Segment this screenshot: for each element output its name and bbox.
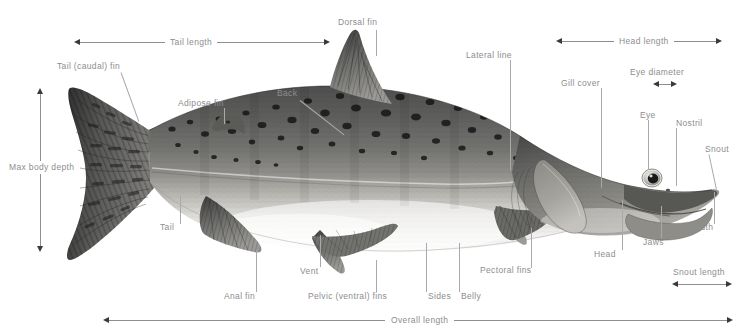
fish-anatomy-diagram: Tail length Head length Eye diameter Sno… bbox=[0, 0, 747, 336]
label-snout-length: Snout length bbox=[673, 268, 725, 277]
label-snout: Snout bbox=[705, 145, 729, 154]
nostril-art bbox=[666, 189, 670, 192]
overall-length-arrow-left bbox=[103, 317, 109, 323]
tail-length-arrow-left bbox=[74, 39, 80, 45]
label-tail-length: Tail length bbox=[165, 38, 217, 47]
label-pectoral-fins: Pectoral fins bbox=[480, 266, 531, 275]
label-pelvic-ventral-fins: Pelvic (ventral) fins bbox=[308, 292, 387, 301]
label-anal-fin: Anal fin bbox=[224, 292, 255, 301]
leader-gill-cover bbox=[601, 88, 602, 188]
salmon-illustration bbox=[0, 0, 747, 336]
label-sides: Sides bbox=[428, 292, 451, 301]
head-length-arrow-left bbox=[556, 38, 562, 44]
leader-tail bbox=[180, 196, 181, 224]
leader-eye bbox=[648, 120, 649, 170]
leader-pectoral-fins bbox=[531, 228, 532, 268]
label-jaws: Jaws bbox=[643, 238, 664, 247]
label-tail-caudal-fin: Tail (caudal) fin bbox=[57, 62, 120, 71]
label-back: Back bbox=[277, 89, 297, 98]
eye-art bbox=[642, 169, 662, 187]
label-adipose-fin: Adipose fin bbox=[178, 99, 224, 108]
leader-jaws bbox=[661, 206, 662, 238]
label-head-length: Head length bbox=[614, 37, 674, 46]
label-eye-diameter: Eye diameter bbox=[630, 68, 684, 77]
snout-length-arrow-right bbox=[726, 281, 732, 287]
label-tail: Tail bbox=[160, 223, 174, 232]
leader-dorsal-fin bbox=[376, 30, 377, 56]
caudal-fin-art bbox=[67, 87, 154, 260]
leader-sides bbox=[426, 243, 427, 292]
leader-adipose-fin bbox=[224, 108, 225, 124]
tail-length-arrow-right bbox=[324, 39, 330, 45]
label-belly: Belly bbox=[461, 292, 481, 301]
head-length-arrow-right bbox=[716, 38, 722, 44]
label-max-body-depth: Max body depth bbox=[9, 161, 74, 174]
overall-length-arrow-right bbox=[727, 317, 733, 323]
label-dorsal-fin: Dorsal fin bbox=[338, 18, 377, 27]
label-gill-cover: Gill cover bbox=[561, 79, 600, 88]
leader-mouth bbox=[714, 192, 715, 224]
leader-nostril bbox=[676, 128, 677, 186]
label-overall-length: Overall length bbox=[385, 316, 454, 325]
max-body-depth-arrow-up bbox=[37, 88, 43, 94]
snout-length-arrow-left bbox=[672, 281, 678, 287]
label-nostril: Nostril bbox=[676, 119, 703, 128]
leader-anal-fin bbox=[256, 250, 257, 292]
leader-belly bbox=[459, 243, 460, 292]
label-head: Head bbox=[594, 250, 616, 259]
label-lateral-line: Lateral line bbox=[466, 51, 512, 60]
leader-pelvic-ventral-fins bbox=[376, 260, 377, 292]
eye-diameter-arrow-right bbox=[671, 81, 677, 87]
leader-vent bbox=[320, 235, 321, 267]
eye-diameter-arrow-left bbox=[653, 81, 659, 87]
label-vent: Vent bbox=[300, 267, 318, 276]
label-mouth: Mouth bbox=[688, 223, 713, 232]
leader-head bbox=[622, 200, 623, 250]
label-eye: Eye bbox=[640, 111, 656, 120]
leader-lateral-line bbox=[510, 60, 511, 170]
max-body-depth-arrow-down bbox=[37, 246, 43, 252]
snout-length-rule bbox=[678, 284, 726, 285]
